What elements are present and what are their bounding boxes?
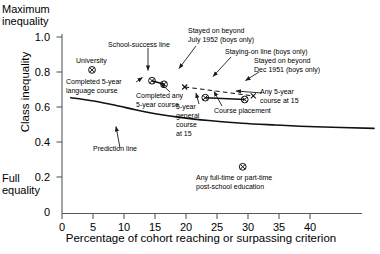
course-placement-line [205,98,244,100]
max-inequality-label: Maximum inequality [2,3,50,28]
annotation-staying-on-line: Staying-on line (boys only) [225,48,308,57]
annotation-post-school-education: Any full-time or part-time post-school e… [196,174,272,192]
y-tick-marks [57,37,63,177]
y-axis-title: Class inequality [19,39,31,145]
y-tick-label: 0 [20,206,50,218]
annotation-prediction-line: Prediction line [93,145,137,154]
point-marker-post-school-education [239,163,246,170]
annotation-completed-5-year-language-course: Completed 5-year language course [66,78,122,96]
annotation-university: University [76,57,107,66]
annotation-5-year-general-course-at-15: 5-year general course at 15 [176,103,199,139]
annotation-any-5-year-course-at-15: Any 5-year course at 15 [260,88,299,106]
annotation-stayed-on-beyond-july-1952: Stayed on beyond July 1952 (boys only) [188,27,254,45]
annotation-stayed-on-beyond-dec-1951: Stayed on beyond Dec 1951 (boys only) [254,57,320,75]
x-axis-title: Percentage of cohort reaching or surpass… [36,232,366,244]
point-marker-stayed-on-beyond-dec-1951 [251,93,256,98]
annotation-course-placement: Course placement [214,107,271,116]
annotation-school-success-line: School-success line [108,41,170,50]
y-tick-label: 0.2 [20,171,50,183]
x-tick-marks [62,214,310,220]
chart-figure: Maximum inequality Full equality 1.0 0.8… [0,0,380,254]
point-marker-university [89,67,96,74]
